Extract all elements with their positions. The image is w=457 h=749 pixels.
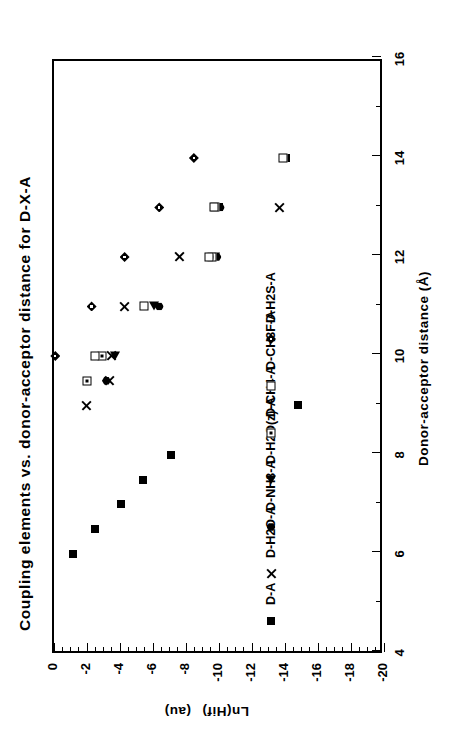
y-axis-minor-tick xyxy=(326,647,327,652)
y-axis-major-tick xyxy=(351,643,352,652)
y-axis-minor-tick xyxy=(334,647,335,652)
y-axis-minor-tick xyxy=(367,647,368,652)
legend-label: D-A xyxy=(264,583,278,605)
data-point xyxy=(174,252,185,263)
y-axis-minor-tick xyxy=(95,647,96,652)
x-tick-label: 8 xyxy=(392,451,407,458)
x-tick-label: 4 xyxy=(392,649,407,656)
y-axis-minor-tick xyxy=(128,647,129,652)
data-point xyxy=(90,352,99,361)
y-axis-minor-tick xyxy=(301,647,302,652)
y-axis-major-tick xyxy=(384,643,385,652)
x-tick-label: 6 xyxy=(392,550,407,557)
y-axis-major-tick xyxy=(87,643,88,652)
y-axis-minor-tick xyxy=(293,647,294,652)
y-tick-label: -4 xyxy=(111,663,126,675)
y-axis-major-tick xyxy=(252,643,253,652)
x-tick-label: 16 xyxy=(392,52,407,66)
y-axis-minor-tick xyxy=(103,647,104,652)
data-point xyxy=(274,202,285,213)
x-axis-minor-tick xyxy=(376,304,381,305)
data-point xyxy=(69,550,77,558)
x-tick-label: 10 xyxy=(392,349,407,363)
y-axis-major-tick xyxy=(318,643,319,652)
data-point xyxy=(149,302,159,311)
y-axis-minor-tick xyxy=(70,647,71,652)
y-axis-minor-tick xyxy=(202,647,203,652)
legend-marker-filled-square xyxy=(267,617,275,625)
y-tick-label: -20 xyxy=(375,663,390,682)
y-axis-minor-tick xyxy=(268,647,269,652)
legend-marker-dotted-diamond xyxy=(266,334,276,344)
data-point xyxy=(82,376,91,385)
legend-item[interactable]: D-CH4-A xyxy=(260,396,282,443)
x-axis-major-tick xyxy=(372,552,381,553)
legend-item[interactable]: D-CH3F-A xyxy=(260,349,282,396)
x-tick-label: 14 xyxy=(392,151,407,165)
y-axis-units: (au) xyxy=(164,704,191,719)
y-tick-label: -12 xyxy=(243,663,258,682)
legend-marker-filled-hexagon xyxy=(267,523,276,532)
data-point xyxy=(204,253,213,262)
x-axis-major-tick xyxy=(372,156,381,157)
legend-item[interactable]: D-H2O-A xyxy=(260,537,282,584)
y-tick-label: -6 xyxy=(144,663,159,675)
x-tick-label: 12 xyxy=(392,250,407,264)
x-axis-minor-tick xyxy=(376,502,381,503)
y-axis-minor-tick xyxy=(260,647,261,652)
y-axis-major-tick xyxy=(54,643,55,652)
data-point xyxy=(279,154,288,163)
y-axis-minor-tick xyxy=(210,647,211,652)
y-axis-major-tick xyxy=(153,643,154,652)
x-axis-minor-tick xyxy=(376,601,381,602)
x-axis-major-tick xyxy=(372,453,381,454)
data-point xyxy=(209,203,218,212)
y-axis-minor-tick xyxy=(194,647,195,652)
data-point xyxy=(167,451,175,459)
y-tick-label: -14 xyxy=(276,663,291,682)
scatter-figure: Coupling elements vs. donor-acceptor dis… xyxy=(0,0,457,749)
y-axis-minor-tick xyxy=(375,647,376,652)
y-axis-title: Ln(Hif) xyxy=(202,704,249,719)
data-point xyxy=(91,525,99,533)
y-axis-minor-tick xyxy=(227,647,228,652)
x-axis-minor-tick xyxy=(376,403,381,404)
data-point xyxy=(110,352,120,361)
legend-marker-open-square xyxy=(267,382,276,391)
data-point xyxy=(81,400,92,411)
x-axis-minor-tick xyxy=(376,205,381,206)
y-axis-major-tick xyxy=(219,643,220,652)
y-tick-label: -8 xyxy=(177,663,192,675)
y-axis-minor-tick xyxy=(359,647,360,652)
figure-rotation-wrapper: Coupling elements vs. donor-acceptor dis… xyxy=(0,0,457,749)
x-axis-major-tick xyxy=(372,57,381,58)
y-axis-major-tick xyxy=(120,643,121,652)
legend-label: D-H2S-A xyxy=(264,272,278,323)
y-axis-minor-tick xyxy=(309,647,310,652)
y-axis-minor-tick xyxy=(276,647,277,652)
data-point xyxy=(119,301,130,312)
y-tick-label: -18 xyxy=(342,663,357,682)
y-axis-minor-tick xyxy=(111,647,112,652)
y-axis-minor-tick xyxy=(235,647,236,652)
data-point xyxy=(117,501,125,509)
data-point xyxy=(139,476,147,484)
legend-item[interactable]: D-NH3-A xyxy=(260,490,282,537)
legend-item[interactable]: D-A xyxy=(260,584,282,631)
y-axis-minor-tick xyxy=(144,647,145,652)
y-axis-minor-tick xyxy=(62,647,63,652)
y-axis-minor-tick xyxy=(243,647,244,652)
x-axis-minor-tick xyxy=(376,106,381,107)
legend-item[interactable]: D-H2S-A xyxy=(260,302,282,349)
y-tick-label: -10 xyxy=(210,663,225,682)
legend-item[interactable]: D-H2O(z)-A xyxy=(260,443,282,490)
y-axis-minor-tick xyxy=(161,647,162,652)
y-tick-label: -16 xyxy=(309,663,324,682)
y-axis-minor-tick xyxy=(78,647,79,652)
legend-marker-left-triangle xyxy=(266,476,276,485)
x-axis-major-tick xyxy=(372,354,381,355)
x-axis-major-tick xyxy=(372,255,381,256)
legend-marker-cross xyxy=(266,569,277,580)
data-point xyxy=(294,402,302,410)
y-axis-minor-tick xyxy=(169,647,170,652)
